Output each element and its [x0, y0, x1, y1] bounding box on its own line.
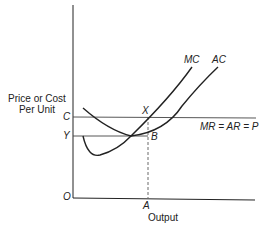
x-axis	[73, 198, 255, 200]
y-axis-label-line2: Per Unit	[6, 104, 68, 115]
point-b-label: B	[151, 132, 158, 142]
origin-label: O	[63, 192, 71, 202]
cost-curve-diagram	[0, 0, 265, 230]
mc-curve-label: MC	[184, 55, 200, 65]
point-c-label: C	[63, 112, 70, 122]
point-a-label: A	[143, 201, 150, 211]
mc-curve	[83, 67, 192, 155]
x-axis-label: Output	[148, 213, 178, 223]
price-line	[73, 117, 256, 118]
point-y-label: Y	[63, 131, 70, 141]
y-axis-label-line1: Price or Cost	[6, 93, 68, 104]
point-x-label: X	[142, 106, 149, 116]
y-axis-label: Price or Cost Per Unit	[6, 93, 68, 115]
price-line-label: MR = AR = P	[200, 122, 259, 132]
ac-curve	[83, 67, 218, 136]
ac-curve-label: AC	[212, 55, 226, 65]
